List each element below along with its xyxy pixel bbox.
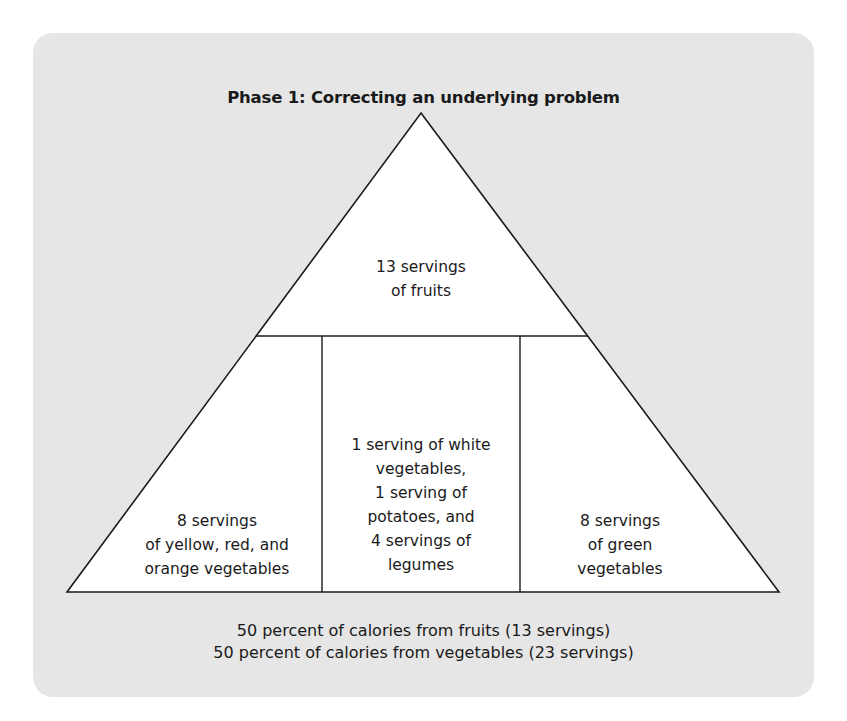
- bottom-right-green-vegetables: 8 servings of green vegetables: [520, 509, 720, 581]
- pyramid-shape: [0, 0, 847, 721]
- calorie-summary-fruits: 50 percent of calories from fruits (13 s…: [0, 620, 847, 642]
- bottom-center-white-vegetables-potatoes-legumes: 1 serving of white vegetables, 1 serving…: [322, 433, 520, 577]
- calorie-summary-vegetables: 50 percent of calories from vegetables (…: [0, 642, 847, 664]
- calorie-summary: 50 percent of calories from fruits (13 s…: [0, 620, 847, 664]
- top-tier-fruits: 13 servings of fruits: [321, 255, 521, 303]
- bottom-left-yellow-red-orange-vegetables: 8 servings of yellow, red, and orange ve…: [112, 509, 322, 581]
